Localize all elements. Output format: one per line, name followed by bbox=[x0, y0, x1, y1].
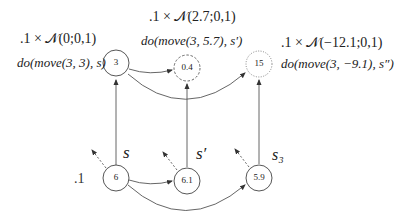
dashed-arrow-59 bbox=[235, 149, 249, 167]
node-3-value: 3 bbox=[103, 57, 129, 67]
action-label-2: do(move(3, 5.7), s′) bbox=[141, 33, 242, 49]
distribution-label-1: .1 × 𝒩(0;0,1) bbox=[20, 31, 96, 47]
dashed-arrow-61 bbox=[163, 152, 177, 170]
edge-6-to-61 bbox=[129, 180, 172, 184]
edge-3-to-04 bbox=[129, 69, 172, 73]
dashed-arrow-6 bbox=[92, 150, 106, 168]
distribution-label-2: .1 × 𝒩(2.7;0,1) bbox=[149, 9, 236, 25]
node-0-4-value: 0.4 bbox=[174, 62, 200, 72]
node-6-1-value: 6.1 bbox=[174, 175, 200, 185]
action-label-3: do(move(3, −9.1), s″) bbox=[281, 56, 394, 72]
node-15-value: 15 bbox=[246, 58, 272, 68]
action-label-1: do(move(3, 3), s) bbox=[17, 55, 106, 71]
node-5-9-value: 5.9 bbox=[246, 172, 272, 182]
distribution-label-3: .1 × 𝒩(−12.1;0,1) bbox=[281, 35, 383, 51]
state-label-s: s bbox=[123, 143, 130, 163]
node-6-value: 6 bbox=[103, 172, 129, 182]
weight-label: .1 bbox=[74, 171, 85, 187]
state-label-s-prime: s′ bbox=[196, 144, 206, 164]
state-label-s3: s₃ bbox=[272, 146, 284, 164]
